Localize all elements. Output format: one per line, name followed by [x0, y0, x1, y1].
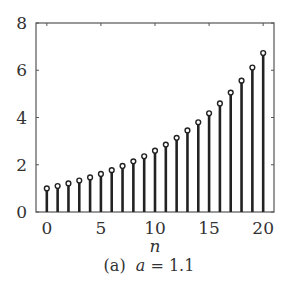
y-tick-label: 6 — [16, 60, 27, 80]
caption-variable: a — [136, 256, 146, 275]
figure-caption: (a) a = 1.1 — [0, 256, 298, 275]
stem-marker — [207, 111, 212, 116]
caption-equation: = 1.1 — [145, 256, 194, 275]
y-tick-label: 8 — [16, 13, 27, 33]
stem-marker — [261, 51, 266, 56]
stem-marker — [153, 148, 158, 153]
x-tick-label: 10 — [144, 218, 166, 238]
stem-marker — [196, 120, 201, 125]
stem-marker — [142, 154, 147, 159]
stem-marker — [250, 65, 255, 70]
stem-marker — [174, 135, 179, 140]
x-axis-label: n — [150, 236, 161, 256]
x-tick-label: 5 — [95, 218, 106, 238]
stem-marker — [228, 90, 233, 95]
stem-marker — [185, 128, 190, 133]
stem-marker — [99, 172, 104, 177]
stem-marker — [131, 159, 136, 164]
stem-marker — [55, 184, 60, 189]
y-tick-label: 0 — [16, 202, 27, 222]
stem-marker — [120, 164, 125, 169]
x-tick-label: 15 — [198, 218, 220, 238]
stem-marker — [163, 142, 168, 147]
stem-plot: 0510152002468n — [0, 0, 298, 293]
x-tick-label: 20 — [252, 218, 274, 238]
stem-marker — [239, 78, 244, 83]
caption-label: (a) — [104, 256, 126, 275]
stem-marker — [88, 175, 93, 180]
stem-marker — [44, 186, 49, 191]
y-tick-label: 4 — [16, 108, 27, 128]
stem-marker — [109, 168, 114, 173]
x-tick-label: 0 — [41, 218, 52, 238]
stem-marker — [77, 178, 82, 183]
plot-area: 0510152002468n — [16, 13, 274, 256]
stem-marker — [66, 181, 71, 186]
y-tick-label: 2 — [16, 155, 27, 175]
stem-marker — [218, 101, 223, 106]
